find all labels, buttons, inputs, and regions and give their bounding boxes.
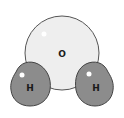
hydrogen-atom-left: H	[11, 62, 51, 106]
oxygen-label: O	[58, 49, 66, 59]
hydrogen-left-label: H	[26, 83, 34, 93]
oxygen-highlight	[42, 32, 47, 37]
hydrogen-atom-right: H	[75, 62, 113, 106]
hydrogen-left-highlight	[20, 73, 25, 78]
hydrogen-right-label: H	[92, 83, 100, 93]
water-molecule-diagram: O H H	[0, 0, 124, 118]
hydrogen-right-highlight	[87, 72, 92, 77]
